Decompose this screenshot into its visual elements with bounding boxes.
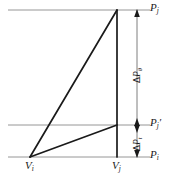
label-volume-left-symbol: V — [25, 159, 32, 171]
triangle-hypotenuse-lower — [30, 125, 117, 157]
dimension-arrow-middle-up — [134, 118, 140, 126]
label-delta-pressure-upper-subscript: θ — [136, 68, 143, 71]
label-pressure-top-subscript: j — [157, 6, 159, 15]
label-volume-left: Vi — [25, 160, 34, 173]
label-pressure-middle-symbol: P — [150, 116, 157, 128]
pressure-volume-figure: Pj Pj′ Pi Vi Vj ΔPθ ΔPt — [0, 0, 169, 182]
label-delta-pressure-lower-delta: Δ — [132, 145, 142, 151]
label-delta-pressure-lower-symbol: P — [132, 139, 142, 145]
label-pressure-middle: Pj′ — [150, 117, 161, 130]
label-delta-pressure-lower-subscript: t — [136, 137, 143, 139]
label-delta-pressure-upper: ΔPθ — [133, 68, 143, 83]
label-volume-right: Vj — [112, 160, 121, 173]
label-pressure-middle-prime: ′ — [159, 116, 161, 128]
dimension-arrow-middle-down — [134, 125, 140, 133]
label-pressure-top: Pj — [150, 2, 159, 15]
label-volume-right-subscript: j — [119, 164, 121, 173]
label-pressure-top-symbol: P — [150, 1, 157, 13]
label-volume-left-subscript: i — [32, 164, 34, 173]
label-delta-pressure-upper-symbol: P — [132, 71, 142, 77]
label-delta-pressure-upper-delta: Δ — [132, 77, 142, 83]
triangle-hypotenuse-upper — [30, 10, 117, 157]
figure-canvas — [0, 0, 169, 182]
label-delta-pressure-lower: ΔPt — [133, 137, 143, 151]
label-pressure-bottom: Pi — [150, 149, 159, 162]
label-pressure-bottom-subscript: i — [157, 153, 159, 162]
label-volume-right-symbol: V — [112, 159, 119, 171]
label-pressure-bottom-symbol: P — [150, 148, 157, 160]
